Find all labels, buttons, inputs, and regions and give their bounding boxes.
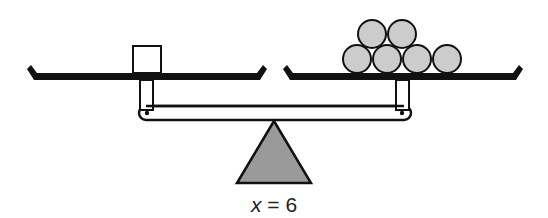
equation-caption: x = 6 [0, 193, 548, 217]
scale-beam [139, 106, 411, 120]
fulcrum-triangle [237, 121, 311, 183]
pivot-left-dot [145, 111, 149, 115]
ball [343, 45, 371, 73]
ball [433, 45, 461, 73]
equals-sign: = [261, 193, 285, 216]
pivot-right-dot [400, 111, 404, 115]
unknown-box [133, 46, 161, 73]
balls [343, 20, 461, 73]
variable-x: x [251, 193, 262, 216]
solution-value: 6 [285, 193, 297, 216]
ball [388, 20, 416, 48]
right-pan [283, 65, 523, 80]
balance-scale [0, 0, 548, 218]
ball [373, 45, 401, 73]
ball [358, 20, 386, 48]
ball [403, 45, 431, 73]
